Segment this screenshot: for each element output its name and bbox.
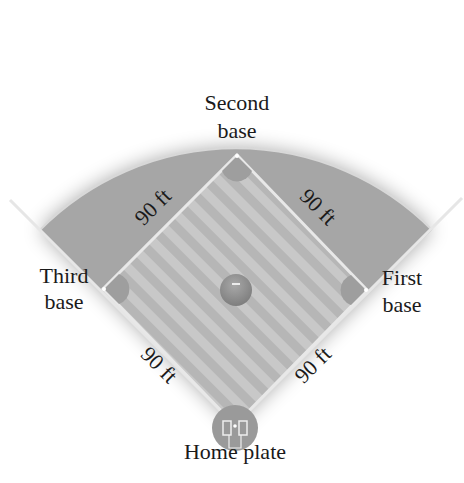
third-base-label-1: Third	[40, 263, 89, 288]
baseball-diamond-diagram: Second base Third base First base Home p…	[0, 0, 464, 483]
first-base-label-1: First	[382, 265, 422, 290]
pitchers-rubber	[232, 283, 240, 285]
second-base-label-2: base	[217, 118, 256, 143]
third-base-label-2: base	[44, 289, 83, 314]
second-base-icon	[235, 154, 239, 158]
first-base-label-2: base	[382, 292, 421, 317]
first-base-icon	[364, 288, 368, 292]
second-base-label-1: Second	[205, 90, 270, 115]
pitchers-mound	[220, 274, 252, 306]
home-plate-icon	[233, 424, 237, 428]
third-base-icon	[102, 287, 106, 291]
home-plate-label: Home plate	[184, 439, 286, 464]
